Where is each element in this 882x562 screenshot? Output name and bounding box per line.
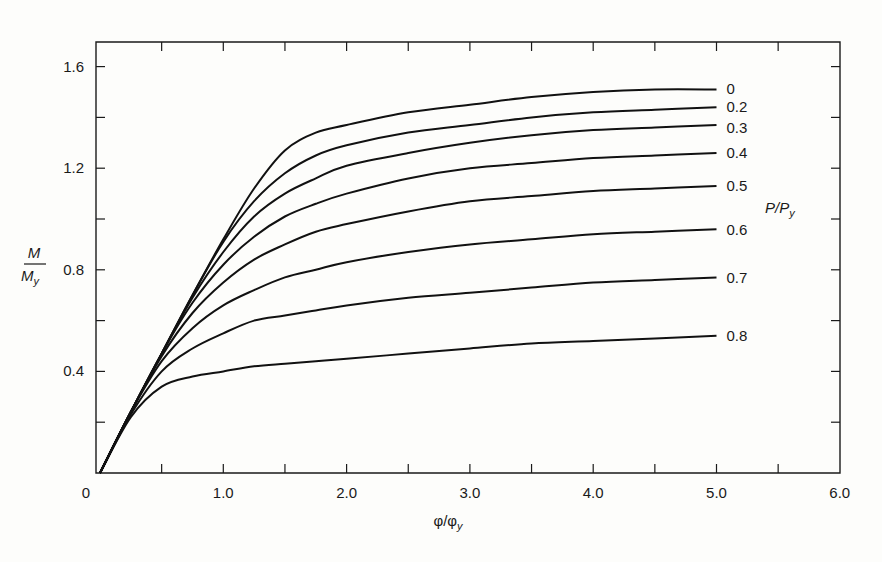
- curve-p-0_3: [100, 125, 717, 473]
- curve-label: 0.6: [727, 221, 748, 238]
- x-axis-title: φ/φy: [433, 512, 464, 532]
- y-tick-label: 1.6: [63, 58, 84, 75]
- curve-labels: 00.20.30.40.50.60.70.8: [727, 80, 748, 344]
- moment-curvature-chart: 01.02.03.04.05.06.00.40.81.21.6 00.20.30…: [0, 0, 882, 562]
- y-tick-label: 0.8: [63, 261, 84, 278]
- y-title-numerator: M: [28, 244, 41, 261]
- curve-label: 0: [727, 80, 735, 97]
- x-tick-label: 2.0: [336, 484, 357, 501]
- curve-p-0_7: [100, 277, 717, 473]
- x-tick-label: 4.0: [583, 484, 604, 501]
- curve-p-0_8: [100, 336, 717, 473]
- y-tick-label: 0.4: [63, 362, 84, 379]
- curve-label: 0.2: [727, 98, 748, 115]
- curve-label: 0.7: [727, 269, 748, 286]
- curve-p-0_6: [100, 229, 717, 473]
- x-tick-label: 1.0: [213, 484, 234, 501]
- y-tick-label: 1.2: [63, 159, 84, 176]
- curve-label: 0.5: [727, 177, 748, 194]
- curve-label: 0.4: [727, 144, 748, 161]
- curve-p-0_2: [100, 107, 717, 473]
- x-tick-label: 0: [82, 484, 90, 501]
- curve-label: 0.3: [727, 119, 748, 136]
- x-tick-label: 5.0: [706, 484, 727, 501]
- legend-title: P/Py: [765, 199, 796, 219]
- y-axis-title: M My: [21, 244, 46, 287]
- x-tick-label: 3.0: [459, 484, 480, 501]
- x-tick-label: 6.0: [829, 484, 850, 501]
- curve-label: 0.8: [727, 327, 748, 344]
- curves: [100, 89, 717, 473]
- y-title-denominator: My: [21, 267, 41, 287]
